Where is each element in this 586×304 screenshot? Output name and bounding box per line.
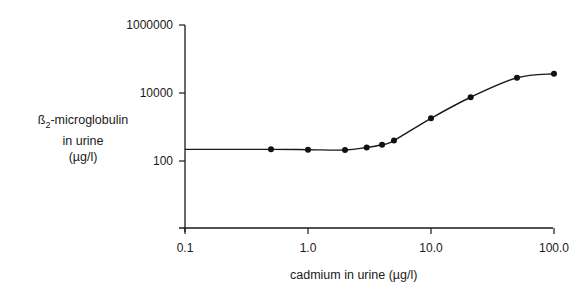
- y-tick-label: 10000: [140, 86, 174, 100]
- fitted-curve: [185, 74, 554, 150]
- data-point: [268, 146, 274, 152]
- data-point: [468, 94, 474, 100]
- data-point: [514, 75, 520, 81]
- y-tick-label: 1000000: [126, 18, 173, 32]
- x-tick-label: 1.0: [300, 241, 317, 255]
- data-point: [364, 144, 370, 150]
- y-tick-label: 100: [153, 154, 173, 168]
- data-point: [428, 115, 434, 121]
- x-tick-label: 0.1: [177, 241, 194, 255]
- x-axis-label: cadmium in urine (µg/l): [290, 268, 417, 282]
- data-point: [391, 138, 397, 144]
- axes: 1001000010000000.11.010.0100.0: [126, 18, 569, 255]
- x-tick-label: 100.0: [539, 241, 569, 255]
- curve-path: [185, 74, 554, 150]
- y-label-line2: in urine: [18, 133, 148, 149]
- x-tick-label: 10.0: [419, 241, 443, 255]
- y-axis-label: ß2-microglobulin in urine (µg/l): [18, 112, 148, 165]
- data-point: [551, 71, 557, 77]
- data-point: [379, 142, 385, 148]
- data-point: [305, 147, 311, 153]
- y-label-units: (µg/l): [18, 149, 148, 165]
- data-points: [268, 71, 557, 153]
- data-point: [342, 147, 348, 153]
- y-label-text: -microglobulin: [50, 113, 128, 127]
